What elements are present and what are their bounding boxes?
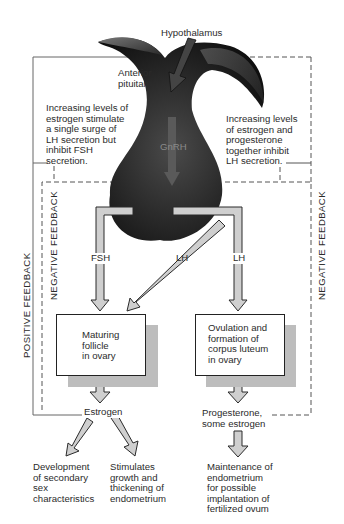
- box-ovulation-text: Ovulation and formation of corpus luteum…: [208, 323, 268, 365]
- outcome-endometrium-maintenance: Maintenance of endometrium for possible …: [207, 462, 273, 515]
- box-maturing-follicle: Maturing follicle in ovary: [56, 314, 146, 376]
- label-lh-right: LH: [233, 253, 245, 264]
- label-anterior-pituitary: Anterior pituitary: [118, 68, 152, 89]
- note-positive-feedback: Increasing levels of estrogen stimulate …: [46, 103, 128, 167]
- label-progesterone: Progesterone, some estrogen: [202, 408, 265, 429]
- outcome-endometrium-growth: Stimulates growth and thickening of endo…: [110, 462, 166, 504]
- label-hypothalamus: Hypothalamus: [161, 28, 222, 39]
- box-follicle-text: Maturing follicle in ovary: [82, 330, 119, 362]
- label-gnrh: GnRH: [160, 142, 187, 153]
- label-positive-feedback: POSITIVE FEEDBACK: [21, 253, 32, 358]
- label-lh-diagonal: LH: [176, 253, 188, 264]
- label-fsh: FSH: [91, 253, 110, 264]
- label-estrogen: Estrogen: [83, 407, 123, 418]
- outcome-secondary-sex-characteristics: Development of secondary sex characteris…: [33, 462, 94, 504]
- label-negative-feedback-right: NEGATIVE FEEDBACK: [316, 191, 327, 300]
- note-negative-feedback: Increasing levels of estrogen and proges…: [226, 114, 297, 167]
- box-ovulation-corpus-luteum: Ovulation and formation of corpus luteum…: [195, 314, 285, 376]
- label-negative-feedback-left: NEGATIVE FEEDBACK: [48, 191, 59, 300]
